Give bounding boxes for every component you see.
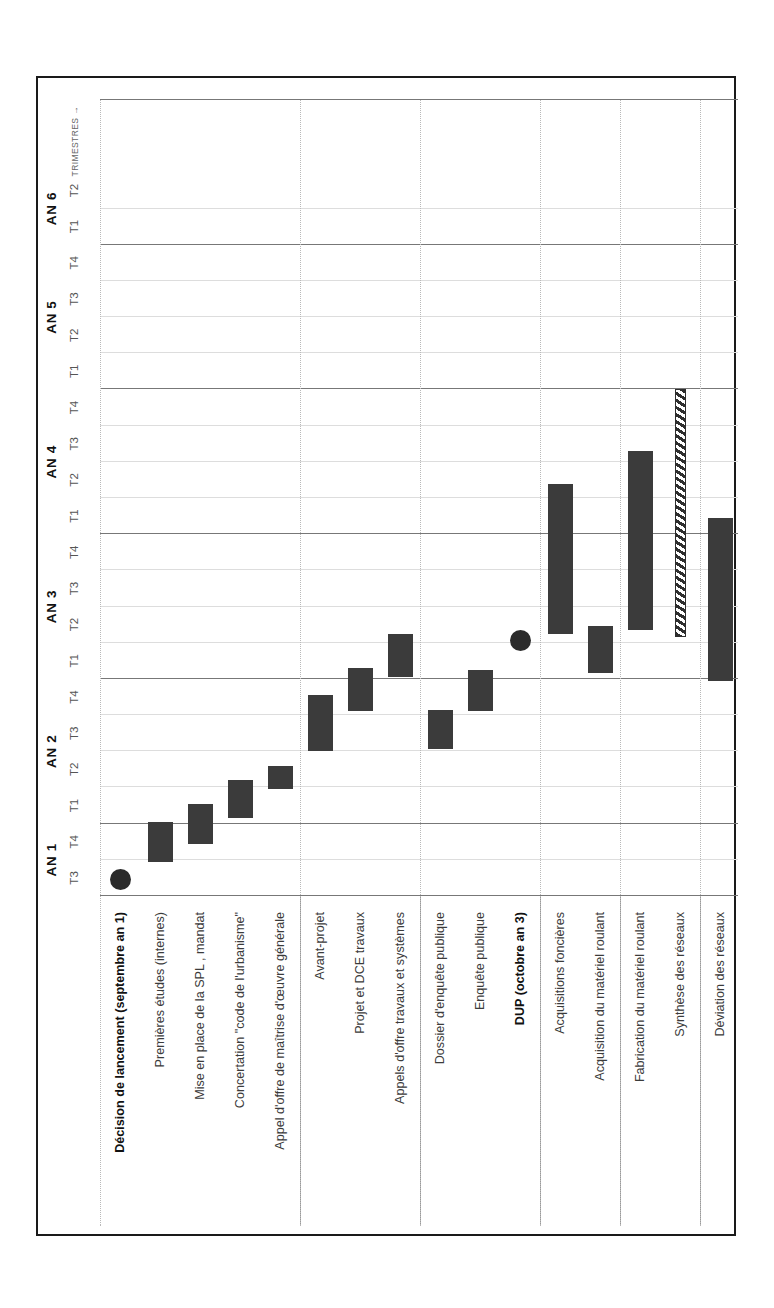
gridline-vertical [100,786,738,787]
gridline-vertical [100,678,738,679]
axis-year-label-1: AN 1 [44,824,59,896]
axis-tick-an5-t2: T2 [68,317,80,353]
task-label-15[interactable]: Déviation des réseaux [700,904,738,1226]
task-bar-2[interactable] [188,804,213,844]
axis-tick-an4-t1: T1 [68,498,80,534]
axis-tick-an3-t2: T2 [68,607,80,643]
axis-tick-an2-t4: T4 [68,679,80,715]
gridline-vertical [100,425,738,426]
axis-tick-an3-t4: T4 [68,534,80,570]
task-label-2[interactable]: Mise en place de la SPL , mandat [180,904,220,1226]
task-label-6[interactable]: Projet et DCE travaux [340,904,380,1226]
gridline-vertical [100,352,738,353]
axis-tick-an5-t1: T1 [68,353,80,389]
axis-tick-an2-t1: T1 [68,788,80,824]
gridline-horizontal [540,100,541,1226]
gantt-chart-page: TRIMESTRES → T3T4AN 1T1T2T3T4AN 2T1T2T3T… [0,0,774,1308]
time-axis-header: TRIMESTRES → T3T4AN 1T1T2T3T4AN 2T1T2T3T… [40,100,106,1226]
chart-frame: TRIMESTRES → T3T4AN 1T1T2T3T4AN 2T1T2T3T… [36,76,736,1236]
axis-year-label-2: AN 2 [44,679,59,824]
axis-tick-an2-t3: T3 [68,715,80,751]
task-bar-5[interactable] [308,695,333,751]
rotation-wrapper: TRIMESTRES → T3T4AN 1T1T2T3T4AN 2T1T2T3T… [38,78,738,1238]
gridline-vertical-end [100,99,738,100]
task-bar-15[interactable] [708,518,733,681]
gridline-vertical [100,714,738,715]
gridline-vertical [100,388,738,389]
milestone-marker-10[interactable] [510,630,531,651]
axis-tick-an5-t3: T3 [68,281,80,317]
task-bar-9[interactable] [468,670,493,712]
gridline-horizontal [300,100,301,1226]
task-label-5[interactable]: Avant-projet [300,904,340,1226]
gridline-vertical [100,316,738,317]
gridline-vertical [100,895,738,896]
axis-tick-an1-t4: T4 [68,824,80,860]
task-bar-13[interactable] [628,451,653,630]
gantt-chart: TRIMESTRES → T3T4AN 1T1T2T3T4AN 2T1T2T3T… [40,90,736,1226]
task-label-7[interactable]: Appels d'offre travaux et systèmes [380,904,420,1226]
task-label-8[interactable]: Dossier d'enquête publique [420,904,460,1226]
axis-year-label-6: AN 6 [44,172,59,244]
task-bar-14[interactable] [675,389,686,637]
axis-tick-an3-t1: T1 [68,643,80,679]
task-bar-6[interactable] [348,668,373,711]
axis-tick-an2-t2: T2 [68,751,80,787]
gridline-horizontal [100,100,101,1226]
axis-year-label-3: AN 3 [44,534,59,679]
task-label-14[interactable]: Synthèse des réseaux [660,904,700,1226]
task-bar-8[interactable] [428,710,453,750]
axis-tick-an6-t2: T2 [68,172,80,208]
task-bar-4[interactable] [268,766,293,790]
gridline-vertical [100,208,738,209]
task-bar-1[interactable] [148,822,173,862]
gridline-vertical [100,642,738,643]
task-label-0[interactable]: Décision de lancement (septembre an 1) [100,904,140,1226]
task-label-13[interactable]: Fabrication du matériel roulant [620,904,660,1226]
gridline-vertical [100,244,738,245]
axis-tick-an5-t4: T4 [68,245,80,281]
task-bar-11[interactable] [548,484,573,634]
axis-tick-an1-t3: T3 [68,860,80,896]
gridline-horizontal [700,100,701,1226]
milestone-marker-0[interactable] [110,869,131,890]
axis-tick-an3-t3: T3 [68,570,80,606]
axis-caption: TRIMESTRES → [70,106,80,176]
axis-tick-an4-t2: T2 [68,462,80,498]
task-label-3[interactable]: Concertation "code de l'urbanisme" [220,904,260,1226]
axis-tick-an6-t1: T1 [68,209,80,245]
gridline-vertical [100,280,738,281]
axis-tick-an4-t4: T4 [68,390,80,426]
gridline-horizontal [620,100,621,1226]
task-label-1[interactable]: Premières études (internes) [140,904,180,1226]
task-label-10[interactable]: DUP (octobre an 3) [500,904,540,1226]
gridline-horizontal [420,100,421,1226]
axis-tick-an4-t3: T3 [68,426,80,462]
task-bar-3[interactable] [228,780,253,818]
task-label-9[interactable]: Enquête publique [460,904,500,1226]
axis-year-label-5: AN 5 [44,245,59,390]
task-label-11[interactable]: Acquisitions foncières [540,904,580,1226]
axis-year-label-4: AN 4 [44,389,59,534]
gridline-vertical [100,859,738,860]
task-bar-7[interactable] [388,634,413,677]
task-bar-12[interactable] [588,626,613,673]
gridline-vertical [100,750,738,751]
task-label-12[interactable]: Acquisition du matériel roulant [580,904,620,1226]
task-label-4[interactable]: Appel d'offre de maîtrise d'œuvre généra… [260,904,300,1226]
